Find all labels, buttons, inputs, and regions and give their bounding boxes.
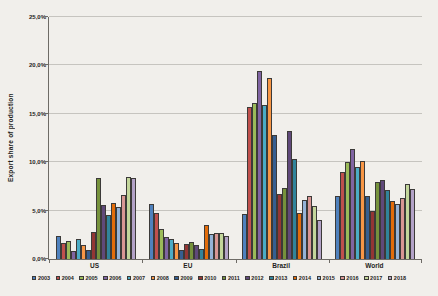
legend-color-swatch-icon xyxy=(317,276,322,281)
export-share-bar-chart: Export share of production 0,0%5,0%10,0%… xyxy=(0,0,438,296)
x-axis-category-label-us: US xyxy=(48,262,141,269)
legend-color-swatch-icon xyxy=(127,276,132,281)
y-axis-tick-label: 15,0% xyxy=(29,111,46,117)
y-axis-tick xyxy=(45,113,48,114)
bar-us-2018 xyxy=(131,178,136,259)
legend-item-2013: 2013 xyxy=(269,275,287,281)
y-axis-tick-label: 20,0% xyxy=(29,62,46,68)
legend-color-swatch-icon xyxy=(151,276,156,281)
bar-eu-2018 xyxy=(224,236,229,259)
plot-area xyxy=(48,17,422,260)
legend-item-label: 2010 xyxy=(204,275,216,281)
legend-item-label: 2005 xyxy=(85,275,97,281)
x-axis-category-label-world: World xyxy=(328,262,421,269)
legend-item-label: 2012 xyxy=(251,275,263,281)
legend-item-2011: 2011 xyxy=(222,275,240,281)
x-axis-category-labels: USEUBrazilWorld xyxy=(48,262,421,269)
y-axis-tick-label: 10,0% xyxy=(29,159,46,165)
bar-brazil-2018 xyxy=(317,220,322,259)
x-axis-category-label-brazil: Brazil xyxy=(235,262,328,269)
legend-color-swatch-icon xyxy=(198,276,203,281)
legend: 2003200420052006200720082009201020112012… xyxy=(0,275,438,281)
legend-item-2012: 2012 xyxy=(245,275,263,281)
legend-color-swatch-icon xyxy=(222,276,227,281)
legend-color-swatch-icon xyxy=(245,276,250,281)
legend-item-2018: 2018 xyxy=(388,275,406,281)
bar-group-us xyxy=(49,17,142,259)
y-axis-tick-label: 25,0% xyxy=(29,14,46,20)
legend-item-label: 2007 xyxy=(133,275,145,281)
x-axis-category-label-eu: EU xyxy=(141,262,234,269)
legend-color-swatch-icon xyxy=(79,276,84,281)
legend-item-label: 2017 xyxy=(370,275,382,281)
y-axis-tick xyxy=(45,16,48,17)
legend-item-label: 2014 xyxy=(299,275,311,281)
bar-world-2018 xyxy=(410,189,415,259)
legend-item-label: 2008 xyxy=(157,275,169,281)
legend-color-swatch-icon xyxy=(340,276,345,281)
bar-group-brazil xyxy=(236,17,329,259)
y-axis-tick xyxy=(45,64,48,65)
legend-color-swatch-icon xyxy=(174,276,179,281)
legend-item-2004: 2004 xyxy=(56,275,74,281)
legend-color-swatch-icon xyxy=(364,276,369,281)
legend-item-2014: 2014 xyxy=(293,275,311,281)
legend-item-label: 2006 xyxy=(109,275,121,281)
legend-item-2007: 2007 xyxy=(127,275,145,281)
legend-item-2003: 2003 xyxy=(32,275,50,281)
legend-item-2017: 2017 xyxy=(364,275,382,281)
bar-group-eu xyxy=(142,17,235,259)
legend-item-label: 2016 xyxy=(346,275,358,281)
legend-item-2015: 2015 xyxy=(317,275,335,281)
legend-item-label: 2003 xyxy=(38,275,50,281)
legend-item-label: 2009 xyxy=(180,275,192,281)
y-axis-tick xyxy=(45,258,48,259)
y-axis-tick xyxy=(45,210,48,211)
legend-item-label: 2011 xyxy=(228,275,240,281)
y-axis-tick-label: 0,0% xyxy=(32,256,46,262)
bar-group-world xyxy=(329,17,422,259)
legend-item-2008: 2008 xyxy=(151,275,169,281)
legend-item-2016: 2016 xyxy=(340,275,358,281)
legend-item-2005: 2005 xyxy=(79,275,97,281)
y-axis-tick-labels: 0,0%5,0%10,0%15,0%20,0%25,0% xyxy=(16,17,46,259)
legend-color-swatch-icon xyxy=(388,276,393,281)
y-axis-tick xyxy=(45,161,48,162)
legend-item-2009: 2009 xyxy=(174,275,192,281)
legend-color-swatch-icon xyxy=(56,276,61,281)
legend-color-swatch-icon xyxy=(269,276,274,281)
legend-color-swatch-icon xyxy=(103,276,108,281)
legend-color-swatch-icon xyxy=(293,276,298,281)
x-axis-tick xyxy=(421,260,422,263)
legend-item-label: 2018 xyxy=(394,275,406,281)
legend-item-2006: 2006 xyxy=(103,275,121,281)
legend-item-label: 2015 xyxy=(323,275,335,281)
legend-item-label: 2004 xyxy=(62,275,74,281)
legend-item-2010: 2010 xyxy=(198,275,216,281)
legend-item-label: 2013 xyxy=(275,275,287,281)
legend-color-swatch-icon xyxy=(32,276,37,281)
y-axis-title: Export share of production xyxy=(5,17,15,259)
y-axis-tick-label: 5,0% xyxy=(32,208,46,214)
